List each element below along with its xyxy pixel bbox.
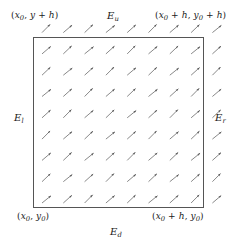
field-arrow <box>106 153 115 161</box>
field-arrow <box>170 89 179 97</box>
vector-field-figure: (x0, y + h) (x0 + h, y0 + h) (x0, y0) (x… <box>0 0 241 246</box>
field-arrow <box>42 153 51 160</box>
field-arrow <box>149 110 158 118</box>
field-arrow <box>212 153 221 161</box>
field-arrow <box>106 132 115 139</box>
field-arrow <box>85 110 94 117</box>
field-arrow <box>42 131 50 139</box>
field-arrow <box>127 195 135 203</box>
field-arrow <box>149 196 158 203</box>
edge-label-right: Er <box>215 113 226 125</box>
field-arrow <box>149 67 157 75</box>
field-arrow <box>149 89 158 96</box>
field-arrow <box>42 46 51 53</box>
field-arrow <box>191 195 199 203</box>
field-arrow <box>63 132 72 139</box>
field-arrow <box>149 174 157 182</box>
field-arrow <box>149 131 157 139</box>
field-arrow <box>191 68 200 76</box>
edge-label-up: Eu <box>107 11 119 23</box>
edge-label-down: Ed <box>110 227 122 239</box>
field-arrow <box>42 89 51 96</box>
field-arrow <box>212 132 221 139</box>
field-arrow <box>127 46 135 54</box>
field-arrow <box>63 46 71 54</box>
field-arrow <box>212 196 221 203</box>
field-arrow <box>63 195 72 203</box>
field-arrow <box>42 67 50 75</box>
field-arrow <box>106 46 115 54</box>
field-arrow <box>191 153 200 160</box>
field-arrow <box>127 68 136 75</box>
field-arrow <box>63 68 72 75</box>
vector-field-canvas <box>0 0 241 246</box>
field-arrow <box>127 111 136 118</box>
field-arrow <box>85 68 94 76</box>
field-arrow <box>85 174 94 182</box>
field-arrow <box>149 153 158 160</box>
edge-label-right-sub: r <box>222 117 225 125</box>
field-arrow <box>149 46 158 53</box>
arrow-group <box>42 24 221 203</box>
field-arrow <box>191 25 199 33</box>
field-arrow <box>170 110 178 118</box>
field-arrow <box>42 110 51 118</box>
field-arrow <box>85 88 93 96</box>
field-arrow <box>191 47 200 54</box>
field-arrow <box>212 67 220 75</box>
field-arrow <box>149 24 157 32</box>
field-arrow <box>191 88 199 96</box>
corner-label-top-right: (x0 + h, y0 + h) <box>155 11 226 22</box>
field-arrow <box>85 25 93 33</box>
field-arrow <box>212 174 220 182</box>
field-arrow <box>85 153 94 160</box>
field-arrow <box>63 152 71 160</box>
field-arrow <box>212 46 221 54</box>
field-arrow <box>127 174 136 181</box>
field-arrow <box>170 25 179 32</box>
field-arrow <box>106 174 114 182</box>
field-arrow <box>63 25 72 32</box>
field-arrow <box>170 132 179 139</box>
field-arrow <box>127 131 136 139</box>
field-arrow <box>42 196 51 203</box>
field-arrow <box>127 152 135 160</box>
field-arrow <box>42 24 50 32</box>
corner-label-top-left: (x0, y + h) <box>11 11 58 22</box>
field-arrow <box>106 89 115 96</box>
field-arrow <box>106 196 115 203</box>
field-arrow <box>85 195 93 203</box>
field-arrow <box>106 110 114 118</box>
corner-label-bottom-right: (x0 + h, y0) <box>152 212 204 223</box>
field-arrow <box>106 25 115 32</box>
field-arrow <box>212 89 221 96</box>
field-arrow <box>191 131 199 139</box>
field-arrow <box>212 25 221 32</box>
field-arrow <box>170 46 178 54</box>
edge-label-left: El <box>14 113 24 125</box>
field-arrow <box>127 25 136 33</box>
field-arrow <box>63 174 72 181</box>
edge-label-left-sub: l <box>21 117 23 125</box>
cell-square-outline <box>34 38 204 208</box>
field-arrow <box>127 89 135 97</box>
field-arrow <box>170 68 179 75</box>
field-arrow <box>170 152 178 160</box>
field-arrow <box>170 195 179 203</box>
field-arrow <box>63 110 71 118</box>
corner-label-bottom-left: (x0, y0) <box>17 212 49 223</box>
field-arrow <box>85 47 94 54</box>
field-arrow <box>85 131 93 139</box>
field-arrow <box>106 67 114 75</box>
field-arrow <box>42 174 50 182</box>
edge-label-down-sub: d <box>117 231 121 239</box>
field-arrow <box>63 89 72 97</box>
edge-label-up-sub: u <box>114 15 118 23</box>
field-arrow <box>191 174 200 182</box>
field-arrow <box>170 174 179 181</box>
field-arrow <box>191 110 200 117</box>
